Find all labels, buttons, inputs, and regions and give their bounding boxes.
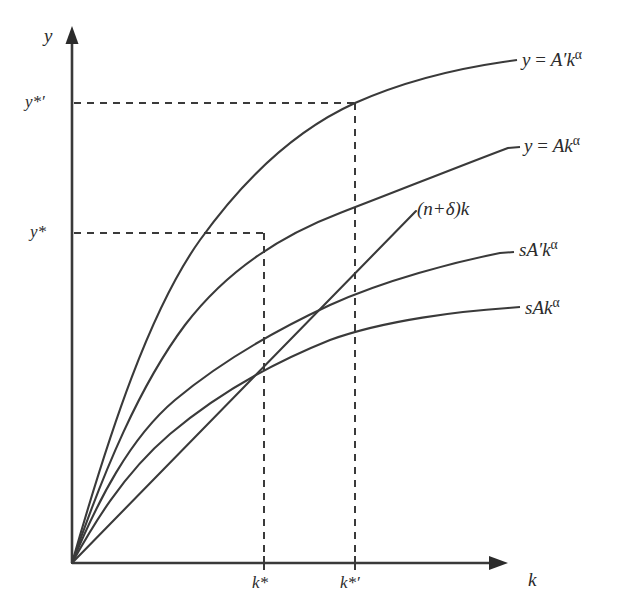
curve-label-y-A-prime: y = A′kα — [522, 48, 582, 69]
curve-label-y-A-eq: = — [532, 135, 552, 156]
y-axis-arrowhead — [66, 26, 79, 44]
curve-label-y-A-prime-eq: = — [530, 49, 550, 70]
curve-label-sA-coef: sA — [525, 297, 544, 318]
curves-group — [72, 62, 508, 563]
leader-y-A-prime — [503, 60, 517, 62]
curve-label-sA-prime: sA′kα — [519, 238, 558, 259]
curve-label-y-A: y = Akα — [524, 134, 580, 155]
curve-label-y-A-prime-coef: A′ — [551, 49, 567, 70]
axes-group — [66, 26, 509, 570]
x-tick-label-k-star-prime: k*′ — [340, 574, 360, 591]
guide-lines-group — [74, 103, 355, 556]
y-tick-label-y-star-prime: y*′ — [25, 93, 45, 110]
line-n-plus-delta-k — [72, 211, 416, 563]
label-leaders-group — [500, 60, 520, 308]
curve-label-n-plus-delta-k: (n+δ)k — [417, 199, 469, 218]
curve-label-y-A-prime-base: k — [566, 49, 574, 70]
x-axis-arrowhead — [489, 556, 508, 570]
curve-label-sA-prime-coef: sA′ — [519, 239, 542, 260]
solow-model-figure: y k y*′ y* k* k*′ y = A′kα y = Akα (n+δ)… — [0, 0, 618, 615]
x-axis-label: k — [528, 570, 536, 589]
leader-sA-prime — [500, 252, 514, 253]
curve-label-y-A-base: k — [564, 135, 572, 156]
curve-sA-prime — [72, 253, 500, 563]
x-tick-label-k-star: k* — [252, 574, 268, 591]
y-axis-label: y — [44, 26, 52, 45]
curve-label-y-A-prime-exponent: α — [575, 47, 582, 62]
curve-label-sA: sAkα — [525, 296, 560, 317]
curve-y-A-prime — [72, 62, 503, 563]
curve-label-sA-prime-exponent: α — [551, 237, 558, 252]
leader-sA — [508, 307, 520, 308]
curve-label-y-A-coef: A — [553, 135, 565, 156]
curve-label-sA-exponent: α — [552, 295, 559, 310]
curve-sA — [72, 308, 508, 563]
y-tick-label-y-star: y* — [30, 223, 46, 240]
curve-label-y-A-exponent: α — [573, 133, 580, 148]
leader-y-A — [508, 147, 520, 148]
curve-label-sA-prime-base: k — [542, 239, 550, 260]
